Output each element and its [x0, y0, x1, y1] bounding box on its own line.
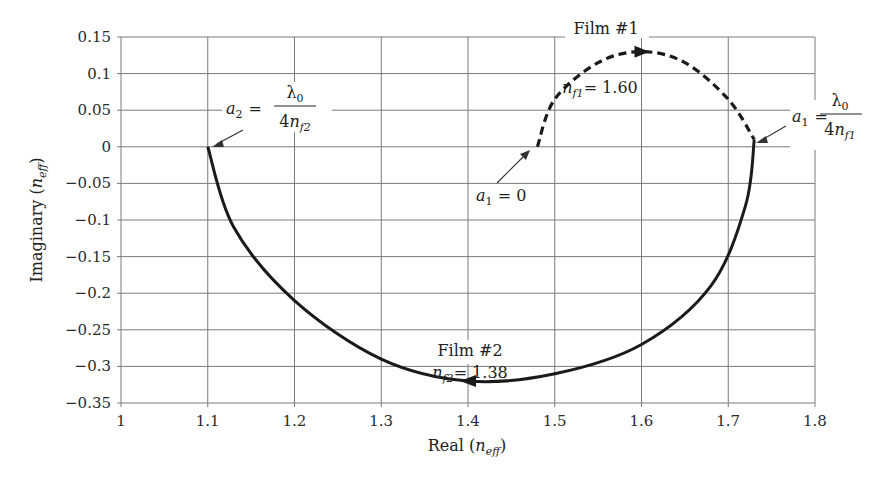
a1-zero-label: a1 = 0 — [476, 186, 526, 208]
a1-formula-arrowhead — [756, 136, 768, 143]
y-tick-label: 0 — [101, 138, 111, 156]
y-tick-label: −0.1 — [75, 211, 111, 229]
x-tick-label: 1.6 — [630, 412, 654, 430]
y-tick-labels: 0.150.10.050−0.05−0.1−0.15−0.2−0.25−0.3−… — [65, 28, 111, 412]
y-tick-label: −0.35 — [65, 394, 111, 412]
y-tick-label: −0.2 — [75, 284, 111, 302]
y-tick-label: −0.05 — [65, 174, 111, 192]
y-tick-label: 0.1 — [87, 65, 111, 83]
a2-formula-arrowhead — [212, 140, 224, 147]
x-tick-label: 1.4 — [456, 412, 480, 430]
x-tick-label: 1.7 — [716, 412, 740, 430]
y-tick-label: 0.15 — [78, 28, 111, 46]
film2-label: Film #2 — [437, 341, 502, 360]
chart: 0.150.10.050−0.05−0.1−0.15−0.2−0.25−0.3−… — [0, 0, 892, 486]
y-tick-label: −0.15 — [65, 248, 111, 266]
a1-formula-label: a1= λ0 4nf1 — [790, 91, 890, 150]
nf1-label: nf1= 1.60 — [562, 78, 638, 100]
y-tick-label: −0.25 — [65, 321, 111, 339]
x-tick-labels: 11.11.21.31.41.51.61.71.8 — [116, 412, 827, 430]
film1-label: Film #1 — [573, 19, 638, 38]
x-tick-label: 1.3 — [369, 412, 393, 430]
x-tick-label: 1.8 — [803, 412, 827, 430]
x-tick-label: 1.1 — [196, 412, 220, 430]
svg-text:λ0: λ0 — [831, 91, 848, 113]
y-axis-label: Imaginary (neff) — [27, 157, 49, 282]
a2-formula-label: a2= λ0 4nf2 — [222, 82, 332, 134]
film1-curve — [537, 52, 754, 147]
x-tick-label: 1.2 — [283, 412, 307, 430]
x-tick-label: 1.5 — [543, 412, 567, 430]
y-tick-label: 0.05 — [78, 101, 111, 119]
y-tick-label: −0.3 — [75, 357, 111, 375]
x-axis-label: Real (neff) — [428, 436, 506, 458]
x-tick-label: 1 — [116, 412, 126, 430]
